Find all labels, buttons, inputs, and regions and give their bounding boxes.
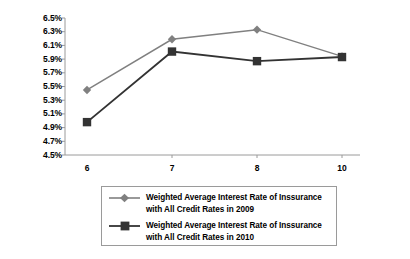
x-axis-tick-label: 7 xyxy=(157,164,187,173)
line-chart: 6.5%6.3%6.1%5.9%5.7%5.5%5.3%5.1%4.9%4.7%… xyxy=(0,0,410,259)
legend-item-2009: Weighted Average Interest Rate of Inssur… xyxy=(102,190,336,218)
legend-marker-diamond-icon xyxy=(106,190,146,212)
legend-item-2010: Weighted Average Interest Rate of Inssur… xyxy=(102,218,336,246)
x-axis-tick-label: 8 xyxy=(242,164,272,173)
x-axis-tick-label: 10 xyxy=(327,164,357,173)
legend-label-2010: Weighted Average Interest Rate of Inssur… xyxy=(146,218,322,243)
legend-label-2009: Weighted Average Interest Rate of Inssur… xyxy=(146,190,322,215)
x-axis-tick-label: 6 xyxy=(72,164,102,173)
legend-marker-square-icon xyxy=(106,218,146,240)
chart-legend: Weighted Average Interest Rate of Inssur… xyxy=(101,186,337,246)
